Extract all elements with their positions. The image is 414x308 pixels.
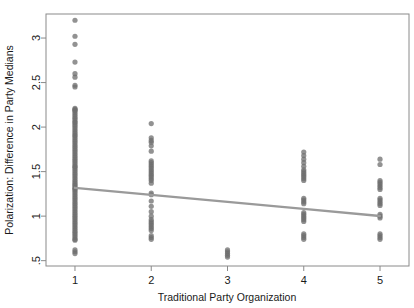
plot-canvas: .511.522.53 12345 Traditional Party Orga… <box>0 0 414 308</box>
data-point <box>72 238 77 243</box>
y-tick-label: 1.5 <box>30 164 42 179</box>
y-tick-label: 1 <box>30 213 42 219</box>
data-point <box>72 18 77 23</box>
data-point <box>72 251 77 256</box>
data-point <box>149 204 154 209</box>
plot-frame <box>46 14 409 266</box>
y-tick-label: 3 <box>30 35 42 41</box>
data-points-group <box>72 18 382 260</box>
y-tick-label: .5 <box>30 256 42 265</box>
y-axis-title: Polarization: Difference in Party Median… <box>3 45 15 234</box>
data-point <box>72 34 77 39</box>
y-axis-ticks: .511.522.53 <box>30 35 46 265</box>
data-point <box>72 75 77 80</box>
data-point <box>149 198 154 203</box>
data-point <box>301 178 306 183</box>
data-point <box>377 237 382 242</box>
data-point <box>301 237 306 242</box>
data-point <box>149 181 154 186</box>
data-point <box>149 228 154 233</box>
data-point <box>72 42 77 47</box>
y-tick-label: 2 <box>30 124 42 130</box>
data-point <box>301 201 306 206</box>
data-point <box>72 84 77 89</box>
data-point <box>149 149 154 154</box>
x-axis-title: Traditional Party Organization <box>158 291 297 303</box>
x-tick-label: 2 <box>148 274 154 286</box>
data-point <box>225 255 230 260</box>
data-point <box>301 219 306 224</box>
data-point <box>377 203 382 208</box>
x-axis-ticks: 12345 <box>72 266 383 286</box>
x-tick-label: 1 <box>72 274 78 286</box>
data-point <box>377 162 382 167</box>
data-point <box>377 187 382 192</box>
data-point <box>72 59 77 64</box>
y-tick-label: 2.5 <box>30 75 42 90</box>
data-point <box>149 121 154 126</box>
x-tick-label: 5 <box>377 274 383 286</box>
scatter-plot-figure: .511.522.53 12345 Traditional Party Orga… <box>0 0 414 308</box>
data-point <box>149 237 154 242</box>
x-tick-label: 3 <box>224 274 230 286</box>
plot-border <box>46 14 409 266</box>
data-point <box>149 143 154 148</box>
x-tick-label: 4 <box>301 274 307 286</box>
trend-line <box>75 188 380 216</box>
data-point <box>149 209 154 214</box>
data-point <box>377 157 382 162</box>
